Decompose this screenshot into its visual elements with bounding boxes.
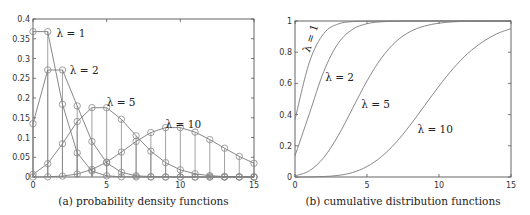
x-tick-label: 15 <box>249 181 259 190</box>
plot-frame <box>33 19 254 177</box>
series-label: λ = 10 <box>417 123 453 135</box>
series-label: λ = 2 <box>70 64 99 76</box>
y-tick-label: 0.15 <box>12 114 30 123</box>
y-tick-label: 0.4 <box>17 15 30 24</box>
y-tick-label: 0.25 <box>12 74 30 83</box>
series-label: λ = 1 <box>300 23 320 54</box>
x-tick-label: 0 <box>30 181 35 190</box>
pdf-chart: 05101500.050.10.150.20.250.30.350.4(a) p… <box>12 15 259 207</box>
y-tick-label: 0.2 <box>17 94 30 103</box>
x-tick-label: 5 <box>364 181 369 190</box>
chart-caption: (b) cumulative distribution functions <box>305 195 500 207</box>
y-tick-label: 0.35 <box>12 35 30 44</box>
y-tick-label: 0.8 <box>279 48 292 57</box>
y-tick-label: 1 <box>287 17 292 26</box>
cdf-chart: 05101500.20.40.60.81(b) cumulative distr… <box>279 17 516 207</box>
y-tick-label: 0.6 <box>279 79 292 88</box>
cdf-curve <box>295 29 511 177</box>
y-tick-label: 0.2 <box>279 142 292 151</box>
series-label: λ = 2 <box>325 71 354 83</box>
y-tick-label: 0.05 <box>12 153 30 162</box>
x-tick-label: 15 <box>506 181 516 190</box>
y-tick-label: 0.3 <box>17 55 30 64</box>
series-line <box>33 128 254 177</box>
series-line <box>33 108 254 177</box>
x-tick-label: 10 <box>434 181 444 190</box>
series-line <box>33 32 254 177</box>
y-tick-label: 0.4 <box>279 111 292 120</box>
x-tick-label: 5 <box>104 181 109 190</box>
cdf-curve <box>295 21 511 156</box>
x-tick-label: 0 <box>292 181 297 190</box>
x-tick-label: 10 <box>175 181 185 190</box>
series-label: λ = 5 <box>361 98 390 110</box>
series-line <box>33 70 254 177</box>
series-label: λ = 10 <box>166 118 202 130</box>
chart-caption: (a) probability density functions <box>58 195 228 207</box>
y-tick-label: 0 <box>287 173 292 182</box>
figure: 05101500.050.10.150.20.250.30.350.4(a) p… <box>0 0 530 215</box>
y-tick-label: 0 <box>25 173 30 182</box>
series-label: λ = 5 <box>107 96 136 108</box>
series-label: λ = 1 <box>57 27 86 39</box>
y-tick-label: 0.1 <box>17 134 30 143</box>
